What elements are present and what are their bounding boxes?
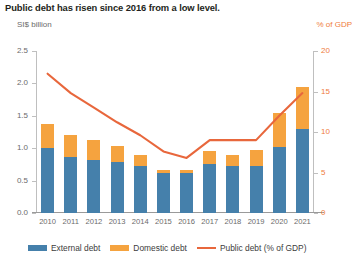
plot-area: 0.00.51.01.52.02.5 05101520 201020112012… (36, 51, 314, 213)
x-tick-label: 2021 (287, 217, 317, 226)
legend-item-label: External debt (51, 243, 100, 253)
legend-item[interactable]: External debt (28, 243, 100, 253)
public-debt-line-series (36, 51, 314, 213)
legend-item-label: Domestic debt (133, 243, 187, 253)
y-tick-mark-right (314, 51, 318, 52)
chart-title: Public debt has risen since 2016 from a … (5, 2, 220, 13)
y-tick-label-left: 2.5 (2, 47, 28, 55)
y-tick-mark-right (314, 213, 318, 214)
y-tick-mark-right (314, 132, 318, 133)
y-tick-label-left: 0.0 (2, 209, 28, 217)
legend-bar-swatch-icon (28, 245, 47, 251)
legend-item-label: Public debt (% of GDP) (220, 243, 307, 253)
y-tick-label-left: 1.0 (2, 144, 28, 152)
y-tick-mark-right (314, 92, 318, 93)
y-tick-label-left: 2.0 (2, 79, 28, 87)
y-tick-label-left: 0.5 (2, 177, 28, 185)
y-tick-mark-left (32, 213, 36, 214)
y-axis-left-label: SI$ billion (17, 20, 52, 29)
y-tick-label-right: 10 (321, 128, 347, 136)
y-axis-right-label: % of GDP (316, 20, 352, 29)
legend-item[interactable]: Public debt (% of GDP) (197, 243, 307, 253)
chart-legend: External debtDomestic debtPublic debt (%… (28, 243, 306, 253)
y-tick-label-right: 20 (321, 47, 347, 55)
y-tick-label-right: 5 (321, 169, 347, 177)
legend-line-swatch-icon (197, 247, 216, 249)
y-tick-label-left: 1.5 (2, 112, 28, 120)
y-tick-mark-right (314, 173, 318, 174)
y-tick-label-right: 15 (321, 88, 347, 96)
legend-bar-swatch-icon (110, 245, 129, 251)
legend-item[interactable]: Domestic debt (110, 243, 187, 253)
y-tick-label-right: 0 (321, 209, 347, 217)
